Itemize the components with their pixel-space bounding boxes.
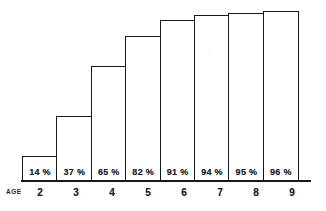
- x-tick-label: 6: [166, 185, 202, 201]
- bar-series: 14 % 37 % 65 % 82 % 91 % 94 % 95 % 96 %: [22, 4, 310, 181]
- bar-age-3: 37 %: [56, 116, 92, 181]
- bar-age-8: 95 %: [228, 13, 264, 181]
- x-axis-tick-labels: 2 3 4 5 6 7 8 9: [22, 185, 310, 201]
- x-tick-label: 8: [238, 185, 274, 201]
- bar-age-4: 65 %: [91, 66, 127, 181]
- x-axis-line: [21, 180, 311, 182]
- x-tick-label: 7: [202, 185, 238, 201]
- x-tick-label: 5: [130, 185, 166, 201]
- bar-age-5: 82 %: [125, 36, 161, 181]
- bar-chart: 14 % 37 % 65 % 82 % 91 % 94 % 95 % 96 %: [0, 0, 326, 211]
- bar-age-6: 91 %: [160, 20, 196, 181]
- bar-age-9: 96 %: [263, 11, 299, 181]
- x-tick-label: 2: [22, 185, 58, 201]
- bar-age-7: 94 %: [194, 15, 230, 181]
- x-axis-caption: AGE: [6, 187, 22, 197]
- bar-age-2: 14 %: [22, 156, 58, 181]
- x-tick-label: 3: [58, 185, 94, 201]
- x-tick-label: 9: [274, 185, 310, 201]
- plot-area: 14 % 37 % 65 % 82 % 91 % 94 % 95 % 96 %: [22, 4, 310, 181]
- x-tick-label: 4: [94, 185, 130, 201]
